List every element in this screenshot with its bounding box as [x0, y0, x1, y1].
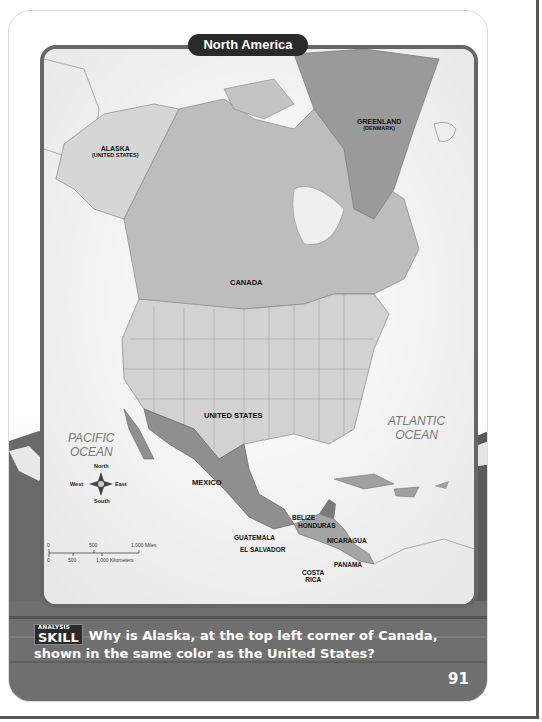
compass-east: East: [115, 481, 127, 487]
scale-miles-0: 0: [47, 542, 50, 548]
label-atlantic-ocean: ATLANTICOCEAN: [388, 414, 445, 443]
map-frame: ALASKA (UNITED STATES) GREENLAND (DENMAR…: [40, 45, 478, 608]
label-canada: CANADA: [230, 279, 263, 287]
compass-north: North: [94, 463, 109, 469]
compass-west: West: [70, 481, 83, 487]
label-belize: BELIZE: [292, 515, 315, 522]
north-america-map: [44, 49, 474, 604]
scale-miles-500: 500: [89, 542, 97, 548]
label-nicaragua: NICARAGUA: [327, 538, 367, 545]
analysis-skill-question: ANALYSIS SKILL Why is Alaska, at the top…: [34, 624, 454, 663]
label-guatemala: GUATEMALA: [234, 535, 275, 542]
question-text: Why is Alaska, at the top left corner of…: [34, 628, 438, 661]
scale-km-1000: 1,000 Kilometers: [96, 557, 134, 563]
scale-km-0: 0: [47, 557, 50, 563]
map-title: North America: [188, 34, 308, 56]
label-el-salvador: EL SALVADOR: [240, 547, 286, 554]
label-greenland: GREENLAND (DENMARK): [357, 118, 401, 132]
analysis-skill-badge: ANALYSIS SKILL: [34, 624, 83, 645]
label-united-states: UNITED STATES: [204, 412, 262, 420]
compass-south: South: [94, 498, 110, 504]
label-costa-rica: COSTA RICA: [302, 570, 324, 583]
label-honduras: HONDURAS: [298, 523, 336, 530]
page-number: 91: [448, 670, 469, 688]
scale-miles-1000: 1,000 Miles: [131, 542, 157, 548]
label-mexico: MEXICO: [192, 479, 222, 487]
label-panama: PANAMA: [334, 562, 362, 569]
label-alaska: ALASKA (UNITED STATES): [92, 145, 139, 159]
scale-km-500: 500: [68, 557, 76, 563]
label-pacific-ocean: PACIFICOCEAN: [68, 431, 114, 460]
